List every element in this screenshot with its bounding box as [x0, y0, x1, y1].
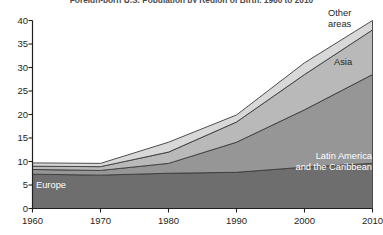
x-axis-tick-labels: 196019701980199020002010: [0, 0, 383, 235]
x-tick-label: 1960: [22, 216, 43, 226]
x-tick-label: 2000: [294, 216, 315, 226]
stacked-area-chart: Foreign-born U.S. Population by Region o…: [0, 0, 383, 235]
x-tick-label: 1970: [90, 216, 111, 226]
x-tick-label: 1980: [158, 216, 179, 226]
series-label-latin-america: Latin America and the Caribbean: [250, 151, 372, 172]
series-label-europe: Europe: [36, 180, 66, 191]
series-label-other-areas: Other areas: [328, 8, 351, 29]
x-tick-label: 1990: [226, 216, 247, 226]
x-tick-label: 2010: [362, 216, 383, 226]
series-label-asia: Asia: [334, 57, 352, 68]
